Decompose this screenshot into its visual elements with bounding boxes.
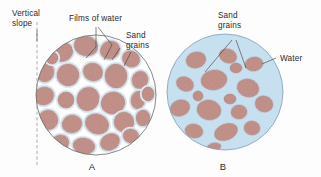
sand-grains-label-b-line1: Sand xyxy=(218,11,238,20)
sand-grain xyxy=(193,91,203,101)
sand-grains-label-b-line2: grains xyxy=(218,21,241,30)
panel-b xyxy=(167,34,283,152)
films-of-water-label: Films of water xyxy=(69,14,122,23)
sand-grains-label-a-line1: Sand xyxy=(126,31,146,40)
panel-b-interior xyxy=(167,34,283,152)
panel-a-label: A xyxy=(89,161,96,172)
sand-grain xyxy=(230,63,242,73)
sand-grain xyxy=(224,94,236,104)
sand-grains-label-a-line2: grains xyxy=(126,41,149,50)
vertical-slope-label-line1: Vertical xyxy=(12,9,40,18)
sand-grain xyxy=(58,92,74,108)
figure-root: Vertical slope Films of water Sand grain… xyxy=(0,0,321,177)
panel-a xyxy=(28,31,156,158)
water-label: Water xyxy=(280,54,302,63)
sand-water-diagram: Vertical slope Films of water Sand grain… xyxy=(0,0,321,177)
sand-grain xyxy=(142,87,154,101)
vertical-slope-label-line2: slope xyxy=(12,19,33,28)
panel-b-label: B xyxy=(220,161,227,172)
